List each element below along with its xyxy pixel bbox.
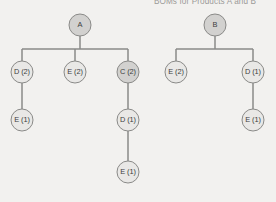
node-label: E (1) bbox=[245, 115, 261, 124]
bom-node[interactable]: B bbox=[204, 14, 226, 36]
node-label: E (2) bbox=[168, 67, 184, 76]
diagram-title: BOMs for Products A and B bbox=[154, 0, 257, 6]
bom-node[interactable]: E (1) bbox=[117, 161, 139, 183]
bom-node[interactable]: D (2) bbox=[11, 61, 33, 83]
bom-diagram: BOMs for Products A and B AD (2)E (2)C (… bbox=[0, 0, 276, 202]
bom-node[interactable]: E (2) bbox=[64, 61, 86, 83]
bom-node[interactable]: A bbox=[69, 14, 91, 36]
bom-node[interactable]: D (1) bbox=[117, 109, 139, 131]
node-label: E (2) bbox=[67, 67, 83, 76]
node-label: E (1) bbox=[14, 115, 30, 124]
bom-node[interactable]: E (1) bbox=[11, 109, 33, 131]
node-label: A bbox=[78, 20, 83, 29]
bom-node[interactable]: E (1) bbox=[242, 109, 264, 131]
nodes-layer: AD (2)E (2)C (2)E (1)D (1)E (1)BE (2)D (… bbox=[11, 14, 264, 183]
bom-node[interactable]: D (1) bbox=[242, 61, 264, 83]
bom-node[interactable]: C (2) bbox=[117, 61, 139, 83]
edges-layer bbox=[22, 36, 253, 161]
bom-node[interactable]: E (2) bbox=[165, 61, 187, 83]
bom-diagram-canvas: BOMs for Products A and B AD (2)E (2)C (… bbox=[0, 0, 276, 202]
node-label: E (1) bbox=[120, 167, 136, 176]
node-label: D (2) bbox=[14, 67, 30, 76]
node-label: D (1) bbox=[120, 115, 136, 124]
node-label: D (1) bbox=[245, 67, 261, 76]
node-label: C (2) bbox=[120, 67, 136, 76]
node-label: B bbox=[213, 20, 218, 29]
